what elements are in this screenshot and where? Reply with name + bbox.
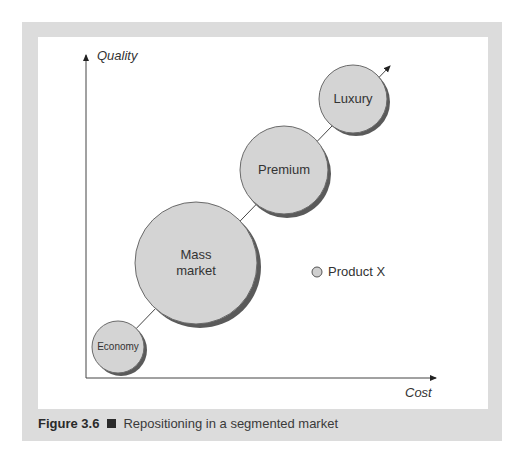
product-x-label: Product X — [328, 264, 385, 279]
luxury-label: Luxury — [333, 91, 372, 107]
figure-number: Figure 3.6 — [38, 416, 99, 431]
x-axis-label: Cost — [405, 385, 432, 400]
product-x-marker — [312, 267, 322, 277]
mass-market-label-line1: Mass — [176, 247, 216, 263]
premium-label: Premium — [258, 162, 310, 178]
mass-market-label: Mass market — [176, 247, 216, 278]
mass-market-label-line2: market — [176, 263, 216, 279]
y-axis-label: Quality — [97, 48, 137, 63]
positioning-diagram — [0, 0, 526, 463]
economy-label: Economy — [97, 341, 139, 353]
square-bullet-icon — [107, 419, 116, 428]
figure-title: Repositioning in a segmented market — [123, 416, 338, 431]
figure-caption: Figure 3.6Repositioning in a segmented m… — [38, 416, 338, 431]
